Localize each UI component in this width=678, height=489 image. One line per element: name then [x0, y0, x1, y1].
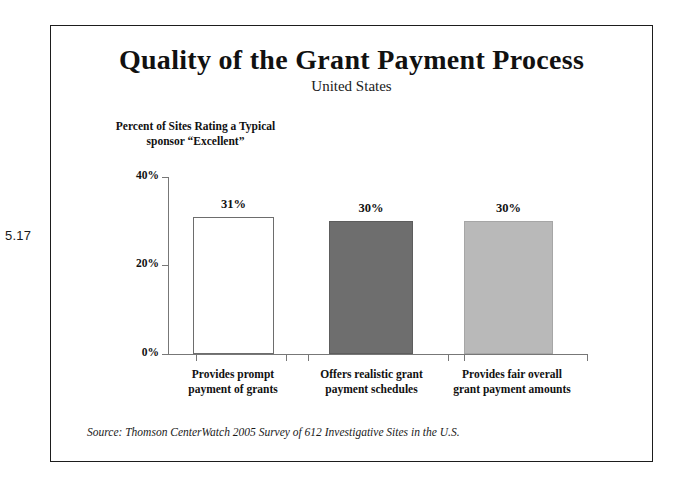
x-category-label-3: Provides fair overall grant payment amou…: [436, 367, 588, 397]
x-category-label-3-line-2: grant payment amounts: [436, 382, 588, 397]
x-axis-line: [168, 354, 588, 355]
x-category-label-2: Offers realistic grant payment schedules: [298, 367, 445, 397]
y-axis-label-line-2: sponsor “Excellent”: [88, 134, 303, 149]
y-tick-label-0: 0%: [142, 346, 159, 358]
bar-provides-prompt-payment[interactable]: 31%: [193, 217, 274, 354]
source-note: Source: Thomson CenterWatch 2005 Survey …: [87, 426, 460, 438]
chart-frame: Quality of the Grant Payment Process Uni…: [50, 25, 653, 462]
x-category-label-2-line-2: payment schedules: [298, 382, 445, 397]
x-category-label-1-line-2: payment of grants: [163, 382, 303, 397]
x-category-label-1: Provides prompt payment of grants: [163, 367, 303, 397]
figure-number: 5.17: [5, 228, 31, 243]
y-axis-line: [168, 177, 169, 355]
x-tick-4: [448, 355, 449, 361]
x-tick-5: [464, 355, 465, 361]
y-axis-label: Percent of Sites Rating a Typical sponso…: [88, 119, 303, 149]
bar-value-label-1: 31%: [194, 197, 273, 212]
bar-value-label-2: 30%: [330, 201, 412, 216]
x-tick-3: [308, 355, 309, 361]
y-tick-mark-0: [162, 354, 169, 355]
x-tick-6: [587, 355, 588, 361]
chart-title: Quality of the Grant Payment Process: [51, 44, 652, 76]
x-category-label-1-line-1: Provides prompt: [163, 367, 303, 382]
x-category-label-3-line-1: Provides fair overall: [436, 367, 588, 382]
bar-value-label-3: 30%: [465, 201, 552, 216]
plot-area: 40% 20% 0% 31% 30% 30% Provides prompt: [168, 177, 588, 355]
y-tick-label-40: 40%: [136, 169, 159, 181]
chart-subtitle: United States: [51, 78, 652, 95]
bar-offers-realistic-schedules[interactable]: 30%: [329, 221, 413, 354]
y-tick-mark-40: [162, 177, 169, 178]
bar-provides-fair-amounts[interactable]: 30%: [464, 221, 553, 354]
y-tick-mark-20: [162, 265, 169, 266]
x-tick-2: [286, 355, 287, 361]
x-category-label-2-line-1: Offers realistic grant: [298, 367, 445, 382]
y-axis-label-line-1: Percent of Sites Rating a Typical: [88, 119, 303, 134]
x-tick-1: [196, 355, 197, 361]
y-tick-label-20: 20%: [136, 257, 159, 269]
